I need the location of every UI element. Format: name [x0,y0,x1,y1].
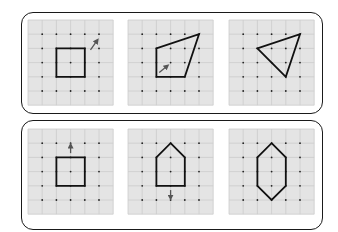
grid-dot [156,33,158,35]
grid-dot [285,142,287,144]
grid-dot [285,90,287,92]
grid-dot [141,62,143,64]
grid-dot [70,62,72,64]
grid-dot [299,185,301,187]
grid-dot [170,48,172,50]
grid-dot [299,48,301,50]
grid-dot [70,33,72,35]
grid-dot [170,33,172,35]
grid-dot [41,62,43,64]
grid-dot [98,62,100,64]
grid-dot [242,157,244,159]
grid-dot [198,90,200,92]
grid-dot [271,185,273,187]
grid-dot [84,33,86,35]
grid-dot [56,199,58,201]
grid-dot [98,76,100,78]
grid-dot [242,62,244,64]
grid-dot [285,48,287,50]
grid-dot [299,171,301,173]
grid-dot [141,76,143,78]
grid-dot [98,157,100,159]
grid-dot [98,90,100,92]
grid-dot [98,142,100,144]
grid-dot [184,48,186,50]
grid-dot [41,90,43,92]
bottom-grid-3-hexagon [229,129,314,214]
grid-dot [285,62,287,64]
grid-dot [41,171,43,173]
grid-dot [156,199,158,201]
diagram-canvas [0,0,338,232]
grid-dot [141,157,143,159]
grid-dot [170,199,172,201]
grid-dot [198,142,200,144]
grid-dot [98,48,100,50]
grid-dot [141,185,143,187]
grid-dot [271,90,273,92]
grid-dot [41,142,43,144]
grid-dot [170,157,172,159]
grid-dot [41,157,43,159]
grid-dot [184,33,186,35]
grid-dot [56,33,58,35]
grid-dot [257,90,259,92]
grid-dot [271,171,273,173]
grid-dot [257,142,259,144]
grid-dot [170,90,172,92]
grid-dot [271,48,273,50]
grid-dot [271,157,273,159]
top-grid-2-quadrilateral [128,20,213,105]
grid-dot [56,142,58,144]
grid-dot [299,142,301,144]
grid-dot [184,199,186,201]
grid-dot [198,185,200,187]
grid-dot [271,33,273,35]
grid-dot [271,76,273,78]
grid-dot [98,199,100,201]
grid-dot [141,199,143,201]
grid-dot [141,142,143,144]
grid-dot [299,157,301,159]
grid-dot [156,90,158,92]
grid-dot [242,48,244,50]
grid-dot [141,171,143,173]
grid-dot [70,199,72,201]
grid-dot [98,185,100,187]
grid-dot [41,33,43,35]
grid-dot [257,76,259,78]
grid-dot [141,48,143,50]
grid-dot [70,142,72,144]
grid-dot [70,171,72,173]
grid-dot [141,33,143,35]
grid-dot [198,48,200,50]
grid-dot [242,76,244,78]
top-grid-3-triangle [229,20,314,105]
bottom-grid-2-pentagon [128,129,213,214]
grid-dot [257,199,259,201]
grid-dot [184,90,186,92]
grid-dot [184,62,186,64]
grid-dot [41,76,43,78]
grid-dot [41,185,43,187]
grid-dot [170,62,172,64]
grid-dot [198,62,200,64]
grid-dot [84,199,86,201]
grid-dot [242,142,244,144]
grid-dot [257,33,259,35]
grid-dot [198,157,200,159]
grid-dot [299,76,301,78]
grid-dot [242,185,244,187]
grid-dot [70,90,72,92]
grid-dot [84,90,86,92]
grid-dot [41,48,43,50]
grid-dot [285,199,287,201]
grid-dot [198,171,200,173]
grid-dot [299,199,301,201]
grid-dot [41,199,43,201]
grid-dot [198,199,200,201]
grid-dot [299,62,301,64]
grid-dot [198,76,200,78]
top-grid-1-square [28,20,113,105]
grid-dot [84,142,86,144]
